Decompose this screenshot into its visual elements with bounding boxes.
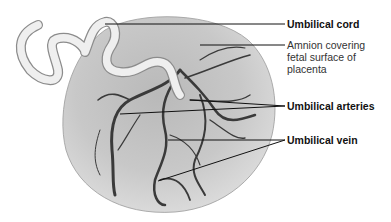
label-amnion-line2: fetal surface of (287, 51, 365, 63)
label-amnion-line1: Amnion covering (287, 39, 365, 51)
label-amnion-line3: placenta (287, 63, 365, 75)
label-umbilical-vein: Umbilical vein (287, 134, 358, 146)
label-amnion: Amnion covering fetal surface of placent… (287, 39, 365, 75)
placenta-disc (63, 17, 275, 213)
label-umbilical-arteries: Umbilical arteries (287, 100, 375, 112)
label-umbilical-cord: Umbilical cord (287, 18, 359, 30)
